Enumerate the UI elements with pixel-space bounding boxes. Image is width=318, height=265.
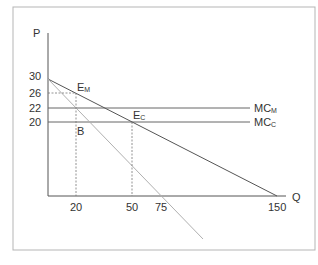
q-axis-label: Q bbox=[292, 191, 301, 203]
monopoly-diagram: P Q 30 26 22 20 20 50 75 150 EM EC B MCM… bbox=[0, 0, 318, 265]
x-tick-75: 75 bbox=[155, 201, 167, 213]
marginal-revenue-curve bbox=[48, 79, 203, 239]
y-tick-30: 30 bbox=[29, 70, 41, 82]
y-tick-22: 22 bbox=[29, 102, 41, 114]
demand-curve bbox=[48, 79, 277, 196]
x-tick-150: 150 bbox=[268, 201, 286, 213]
monopoly-equilibrium-label: EM bbox=[77, 81, 90, 93]
y-tick-26: 26 bbox=[29, 87, 41, 99]
mc-monopoly-label: MCM bbox=[254, 102, 277, 114]
diagram-frame bbox=[13, 7, 315, 250]
p-axis-label: P bbox=[33, 27, 40, 39]
competitive-equilibrium-label: EC bbox=[133, 109, 145, 121]
mc-competitive-label: MCC bbox=[254, 116, 276, 128]
y-tick-20: 20 bbox=[29, 116, 41, 128]
x-tick-50: 50 bbox=[126, 201, 138, 213]
point-b-label: B bbox=[77, 125, 84, 137]
x-tick-20: 20 bbox=[70, 201, 82, 213]
